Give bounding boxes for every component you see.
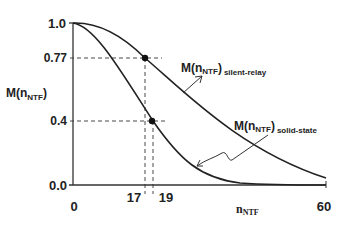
silent-relay-curve — [73, 23, 326, 178]
point-solid — [149, 118, 155, 124]
y-tick-label-0.77: 0.77 — [44, 51, 68, 65]
x-tick-label-60: 60 — [317, 199, 331, 214]
guide-lines — [70, 58, 168, 194]
legend-solid-state: M(nNTF)solid-state — [234, 119, 317, 135]
x-tick-label-19: 19 — [159, 190, 173, 205]
relay-pointer-arrow — [183, 76, 202, 93]
y-tick-label-0.4: 0.4 — [50, 114, 67, 128]
chart: 1.0 0.77 0.4 0.0 0 17 19 60 M(nNTF) nNTF… — [0, 0, 354, 228]
y-tick-label-0.0: 0.0 — [49, 178, 67, 193]
point-relay — [142, 55, 148, 61]
solid-pointer-arrow — [197, 135, 268, 166]
x-axis-label: nNTF — [236, 202, 259, 217]
legend-silent-relay: M(nNTF)silent-relay — [181, 61, 267, 77]
y-tick-label-1.0: 1.0 — [48, 16, 66, 31]
y-axis-label: M(nNTF) — [6, 86, 47, 102]
x-tick-label-17: 17 — [127, 190, 141, 205]
x-tick-label-0: 0 — [70, 199, 77, 214]
